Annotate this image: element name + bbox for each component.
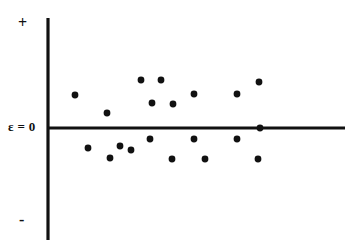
data-point [256,79,263,86]
data-point [234,136,241,143]
data-point [255,156,262,163]
data-point [158,77,165,84]
data-point [107,155,114,162]
data-point [147,136,154,143]
data-point [191,136,198,143]
data-point [170,101,177,108]
data-point [202,156,209,163]
data-point [234,91,241,98]
data-point [149,100,156,107]
data-point-group [72,77,264,163]
residual-scatter-figure: + - ε = 0 [0,0,359,247]
plot-canvas [0,0,359,247]
data-point [72,92,79,99]
data-point [104,110,111,117]
data-point [85,145,92,152]
data-point [169,156,176,163]
negative-axis-label: - [19,212,24,228]
positive-axis-label: + [18,15,27,31]
axes-group [48,18,345,240]
zero-line-label: ε = 0 [8,120,35,133]
data-point [128,147,135,154]
data-point [117,143,124,150]
data-point [191,91,198,98]
data-point [138,77,145,84]
data-point [257,125,264,132]
